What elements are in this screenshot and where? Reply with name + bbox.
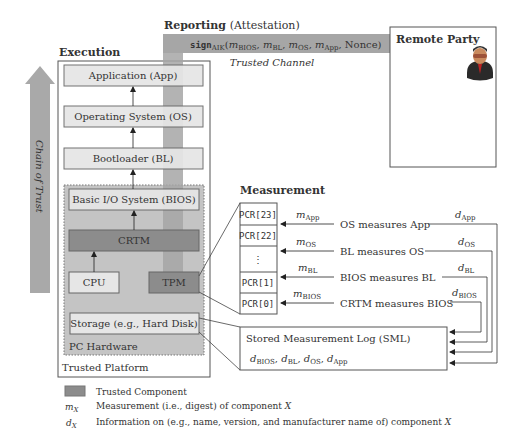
svg-text:CRTM measures BIOS: CRTM measures BIOS bbox=[340, 298, 454, 309]
svg-text:BIOS measures BL: BIOS measures BL bbox=[340, 272, 436, 283]
legend-item: Measurement (i.e., digest) of component … bbox=[96, 401, 292, 411]
component-storage: Storage (e.g., Hard Disk) bbox=[70, 313, 199, 334]
svg-text:mBL: mBL bbox=[298, 262, 318, 275]
chain-of-trust-arrow: Chain of Trust bbox=[25, 66, 55, 293]
component-cpu: CPU bbox=[69, 272, 119, 293]
chain-of-trust-label: Chain of Trust bbox=[34, 140, 45, 214]
trusted-platform-label: Trusted Platform bbox=[62, 362, 149, 373]
legend-key: mX bbox=[65, 402, 80, 414]
measurement-heading: Measurement bbox=[240, 184, 326, 197]
svg-text:dBIOS: dBIOS bbox=[452, 287, 477, 300]
svg-text:CRTM: CRTM bbox=[118, 235, 150, 246]
sml-title: Stored Measurement Log (SML) bbox=[246, 333, 410, 344]
component-tpm: TPM bbox=[149, 272, 199, 293]
svg-text:Storage (e.g., Hard Disk): Storage (e.g., Hard Disk) bbox=[70, 318, 198, 329]
measurement-row: mBIOS CRTM measures BIOS dBIOS bbox=[281, 287, 481, 332]
svg-text:mBIOS: mBIOS bbox=[293, 288, 321, 301]
svg-text:Application (App): Application (App) bbox=[88, 70, 178, 81]
component-os: Operating System (OS) bbox=[64, 106, 203, 127]
pcr-row: PCR[22] bbox=[239, 231, 277, 241]
execution-heading: Execution bbox=[59, 46, 120, 59]
svg-text:TPM: TPM bbox=[162, 277, 186, 288]
pc-hardware-label: PC Hardware bbox=[69, 341, 138, 352]
remote-party-box bbox=[390, 27, 496, 167]
component-crtm: CRTM bbox=[69, 230, 199, 251]
svg-text:BL measures OS: BL measures OS bbox=[340, 246, 424, 257]
svg-text:dApp: dApp bbox=[455, 209, 476, 222]
diagram-canvas: Chain of Trust Reporting (Attestation) E… bbox=[0, 0, 523, 444]
svg-text:CPU: CPU bbox=[83, 277, 106, 288]
svg-text:Bootloader (BL): Bootloader (BL) bbox=[93, 153, 174, 164]
remote-party-title: Remote Party bbox=[396, 33, 480, 46]
pcr-table: PCR[23] PCR[22] ⋮ PCR[1] PCR[0] bbox=[239, 203, 277, 314]
svg-text:dOS: dOS bbox=[458, 236, 475, 249]
component-bios: Basic I/O System (BIOS) bbox=[69, 189, 199, 210]
svg-text:dBL: dBL bbox=[458, 262, 475, 275]
reporting-heading: Reporting (Attestation) bbox=[164, 19, 300, 32]
legend-swatch-trusted bbox=[65, 386, 85, 396]
legend-key: dX bbox=[66, 418, 78, 430]
legend-item: Trusted Component bbox=[96, 387, 187, 397]
trusted-channel-label: Trusted Channel bbox=[230, 57, 315, 68]
svg-text:Basic I/O System (BIOS): Basic I/O System (BIOS) bbox=[72, 194, 196, 205]
component-app: Application (App) bbox=[64, 65, 203, 86]
pcr-row: PCR[1] bbox=[242, 278, 275, 288]
svg-text:OS measures App: OS measures App bbox=[340, 219, 430, 230]
svg-text:Operating System (OS): Operating System (OS) bbox=[74, 111, 192, 122]
legend: Trusted Component mX Measurement (i.e., … bbox=[65, 386, 452, 430]
pcr-row: PCR[23] bbox=[239, 210, 277, 220]
component-bl: Bootloader (BL) bbox=[64, 148, 203, 169]
legend-item: Information on (e.g., name, version, and… bbox=[96, 417, 452, 427]
pcr-row: ⋮ bbox=[253, 254, 263, 265]
svg-text:mApp: mApp bbox=[296, 209, 320, 222]
pcr-row: PCR[0] bbox=[242, 299, 275, 309]
svg-text:mOS: mOS bbox=[296, 236, 316, 249]
sml-box: Stored Measurement Log (SML) dBIOS, dBL,… bbox=[240, 327, 447, 370]
